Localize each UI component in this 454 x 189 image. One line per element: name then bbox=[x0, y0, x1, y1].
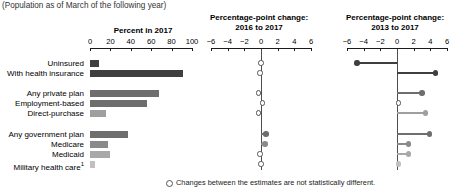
axis-tick-label: 0 bbox=[395, 37, 399, 46]
dot-military-health-care bbox=[396, 161, 401, 166]
axis-tick-label: −6 bbox=[343, 37, 352, 46]
axis-tick-label: 4 bbox=[428, 37, 432, 46]
bar-employment-based bbox=[90, 100, 147, 107]
legend-footnote: Changes between the estimates are not st… bbox=[166, 178, 375, 187]
axis-tick bbox=[131, 48, 132, 51]
axis-tick bbox=[347, 48, 348, 51]
axis-tick-label: 80 bbox=[167, 37, 175, 46]
axis-tick-label: −2 bbox=[376, 37, 385, 46]
row-label-any-private-plan: Any private plan bbox=[27, 89, 84, 98]
axis-tick bbox=[90, 48, 91, 51]
panel2-title-line2: 2016 to 2017 bbox=[200, 23, 318, 33]
dot-medicaid bbox=[257, 151, 262, 156]
dot-employment-based bbox=[396, 100, 401, 105]
axis-tick-label: 20 bbox=[106, 37, 114, 46]
bar-direct-purchase bbox=[90, 110, 106, 117]
axis-line bbox=[90, 48, 192, 49]
axis-tick-label: −2 bbox=[240, 37, 249, 46]
bar-uninsured bbox=[90, 60, 99, 67]
axis-tick-label: 6 bbox=[445, 37, 449, 46]
axis-tick bbox=[110, 48, 111, 51]
axis-tick-label: 0 bbox=[88, 37, 92, 46]
dot-medicaid bbox=[406, 151, 411, 156]
row-label-any-government-plan: Any government plan bbox=[8, 130, 84, 139]
stem-any-private-plan bbox=[397, 92, 422, 94]
row-label-direct-purchase: Direct-purchase bbox=[28, 109, 84, 118]
footnote-text: Changes between the estimates are not st… bbox=[176, 178, 375, 187]
row-label-employment-based: Employment-based bbox=[15, 99, 84, 108]
bar-military-health-care bbox=[90, 161, 95, 168]
axis-tick-label: 0 bbox=[259, 37, 263, 46]
dot-direct-purchase bbox=[423, 110, 428, 115]
bar-medicare bbox=[90, 141, 108, 148]
dot-medicare bbox=[262, 141, 267, 146]
dot-with-health-insurance bbox=[433, 70, 438, 75]
axis-tick bbox=[172, 48, 173, 51]
row-label-with-health-insurance: With health insurance bbox=[7, 69, 84, 78]
dot-with-health-insurance bbox=[257, 70, 262, 75]
stem-any-government-plan bbox=[397, 133, 430, 135]
stem-with-health-insurance bbox=[397, 72, 435, 74]
stem-direct-purchase bbox=[397, 112, 425, 114]
bar-with-health-insurance bbox=[90, 70, 183, 77]
dot-military-health-care bbox=[258, 161, 263, 166]
axis-tick-label: 60 bbox=[147, 37, 155, 46]
axis-tick bbox=[244, 48, 245, 51]
panel1-title: Percent in 2017 bbox=[88, 26, 198, 36]
axis-tick-label: −4 bbox=[359, 37, 368, 46]
panel2-title-line1: Percentage-point change: bbox=[200, 13, 318, 23]
dot-any-government-plan bbox=[263, 131, 268, 136]
axis-tick bbox=[380, 48, 381, 51]
axis-tick bbox=[211, 48, 212, 51]
row-label-military-health-care: Military health care1 bbox=[14, 160, 84, 172]
axis-tick-label: 2 bbox=[412, 37, 416, 46]
row-label-medicare: Medicare bbox=[51, 140, 84, 149]
axis-tick bbox=[311, 48, 312, 51]
axis-tick bbox=[228, 48, 229, 51]
axis-tick-label: 40 bbox=[127, 37, 135, 46]
bar-any-private-plan bbox=[90, 90, 159, 97]
dot-any-private-plan bbox=[256, 90, 261, 95]
dot-medicare bbox=[406, 141, 411, 146]
axis-tick bbox=[192, 48, 193, 51]
axis-tick-label: 6 bbox=[309, 37, 313, 46]
dot-uninsured bbox=[258, 60, 263, 65]
dot-any-private-plan bbox=[419, 90, 424, 95]
dot-uninsured bbox=[354, 60, 359, 65]
open-circle-icon bbox=[166, 180, 173, 187]
dot-employment-based bbox=[260, 100, 265, 105]
axis-tick-label: 2 bbox=[276, 37, 280, 46]
axis-tick bbox=[364, 48, 365, 51]
bar-any-government-plan bbox=[90, 131, 128, 138]
stem-uninsured bbox=[357, 62, 397, 64]
axis-tick-label: −6 bbox=[207, 37, 216, 46]
axis-tick bbox=[430, 48, 431, 51]
zero-reference-line bbox=[397, 49, 398, 170]
row-label-column: UninsuredWith health insuranceAny privat… bbox=[0, 0, 86, 189]
axis-tick-label: 4 bbox=[292, 37, 296, 46]
axis-tick-label: −4 bbox=[223, 37, 232, 46]
axis-tick bbox=[414, 48, 415, 51]
health-insurance-coverage-chart: (Population as of March of the following… bbox=[0, 0, 454, 189]
panel3-title-line2: 2013 to 2017 bbox=[336, 23, 454, 33]
dot-direct-purchase bbox=[256, 110, 261, 115]
footnote-marker: 1 bbox=[81, 161, 84, 167]
dot-any-government-plan bbox=[427, 131, 432, 136]
axis-tick bbox=[294, 48, 295, 51]
axis-tick bbox=[151, 48, 152, 51]
axis-tick bbox=[278, 48, 279, 51]
bar-medicaid bbox=[90, 151, 110, 158]
row-label-uninsured: Uninsured bbox=[48, 59, 84, 68]
row-label-medicaid: Medicaid bbox=[52, 150, 84, 159]
axis-tick bbox=[447, 48, 448, 51]
axis-tick-label: 100 bbox=[186, 37, 199, 46]
panel3-title-line1: Percentage-point change: bbox=[336, 13, 454, 23]
